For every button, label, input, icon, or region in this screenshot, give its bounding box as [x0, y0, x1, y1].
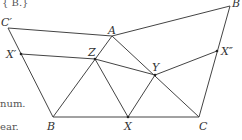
label-b: B	[46, 120, 55, 133]
point-y	[154, 74, 157, 77]
label-z: Z	[87, 46, 96, 59]
segment-a-b	[53, 36, 112, 117]
label-y: Y	[152, 61, 161, 74]
geometry-diagram: { B.} num. ear. C′ A B X′ Z Y X″ B X C	[0, 0, 242, 140]
segment-y-xdouble	[155, 51, 217, 75]
segment-cprime-a	[8, 28, 112, 36]
text-fragment-mid: num.	[0, 98, 26, 109]
label-c: C	[199, 120, 208, 133]
segment-a-btop	[112, 6, 230, 36]
label-xdouble: X″	[220, 45, 234, 58]
label-xprime: X′	[5, 48, 17, 61]
segment-z-x	[95, 59, 128, 117]
label-x: X	[123, 120, 133, 133]
text-fragment-bottom: ear.	[0, 121, 19, 132]
segment-xprime-z	[21, 54, 95, 59]
point-xprime	[20, 53, 23, 56]
point-x	[127, 116, 130, 119]
point-xdouble	[216, 50, 219, 53]
label-cprime: C′	[1, 16, 12, 29]
label-btop: B	[231, 0, 240, 10]
segment-a-c	[112, 36, 199, 117]
label-a: A	[107, 24, 116, 37]
segment-btop-c	[199, 6, 230, 117]
text-fragment-top: { B.}	[2, 0, 28, 8]
segment-y-x	[128, 75, 155, 117]
